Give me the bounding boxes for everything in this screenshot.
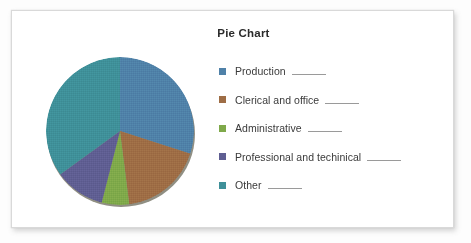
legend-item-label: Other: [235, 179, 302, 191]
legend-item[interactable]: Production: [219, 57, 451, 86]
legend-item[interactable]: Professional and techinical: [219, 143, 451, 172]
legend-value-blank-field[interactable]: [268, 179, 302, 189]
legend-color-swatch-icon: [219, 96, 226, 103]
scan-page: Pie Chart ProductionClerical and officeA…: [0, 0, 471, 243]
legend-value-blank-field[interactable]: [367, 151, 401, 161]
legend-color-swatch-icon: [219, 182, 226, 189]
legend-color-swatch-icon: [219, 125, 226, 132]
pie-chart: [46, 57, 194, 205]
legend-item-label: Production: [235, 65, 326, 77]
legend-value-blank-field[interactable]: [325, 94, 359, 104]
legend-item-label: Professional and techinical: [235, 151, 401, 163]
legend-item[interactable]: Administrative: [219, 114, 451, 143]
legend-item-label: Administrative: [235, 122, 342, 134]
legend-color-swatch-icon: [219, 153, 226, 160]
legend-item[interactable]: Clerical and office: [219, 86, 451, 115]
legend-value-blank-field[interactable]: [308, 122, 342, 132]
page-title: Pie Chart: [12, 27, 453, 39]
pie-slices: [46, 57, 194, 205]
legend-item-label: Clerical and office: [235, 94, 359, 106]
legend-color-swatch-icon: [219, 68, 226, 75]
pie-chart-card: Pie Chart ProductionClerical and officeA…: [11, 10, 454, 228]
legend-item[interactable]: Other: [219, 171, 451, 200]
chart-legend: ProductionClerical and officeAdministrat…: [219, 57, 451, 200]
legend-value-blank-field[interactable]: [292, 65, 326, 75]
pie-chart-figure: [36, 47, 206, 215]
